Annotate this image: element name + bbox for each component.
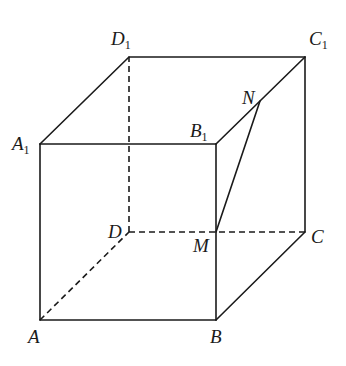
label-D1: D1 xyxy=(110,28,131,52)
edge-D1-A1 xyxy=(40,57,129,144)
label-C1: C1 xyxy=(309,28,328,52)
label-A: A xyxy=(26,326,40,347)
edge-A-D xyxy=(40,232,129,320)
visible-edges xyxy=(40,57,305,320)
edge-B-C xyxy=(216,232,305,320)
label-C: C xyxy=(311,226,324,247)
label-B1: B1 xyxy=(190,120,208,144)
vertex-labels: D1 C1 A1 B1 N D M C A B xyxy=(10,28,328,347)
segment-M-N xyxy=(216,101,260,232)
label-M: M xyxy=(192,235,210,256)
label-B: B xyxy=(210,326,222,347)
label-A1: A1 xyxy=(10,133,30,157)
cube-diagram: D1 C1 A1 B1 N D M C A B xyxy=(0,0,346,366)
label-D: D xyxy=(107,221,122,242)
label-N: N xyxy=(241,87,256,108)
